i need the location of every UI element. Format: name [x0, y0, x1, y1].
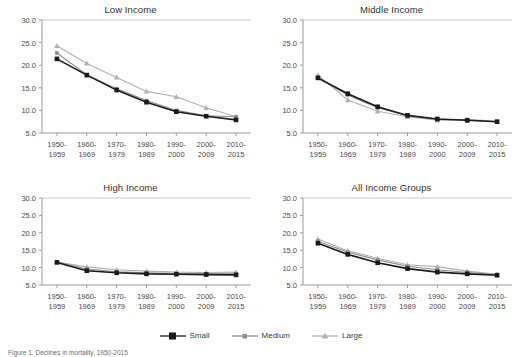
svg-text:30.0: 30.0: [282, 194, 297, 203]
svg-text:2000-: 2000-: [458, 292, 478, 301]
legend-item-medium: Medium: [232, 331, 290, 341]
svg-text:10.0: 10.0: [21, 264, 36, 273]
svg-text:1960-: 1960-: [338, 140, 358, 149]
svg-text:30.0: 30.0: [21, 16, 36, 25]
plot-area-low-income: 5.010.015.020.025.030.01950-19591960-196…: [0, 0, 261, 178]
svg-text:2000: 2000: [168, 150, 185, 159]
svg-text:15.0: 15.0: [21, 84, 36, 93]
svg-text:1960-: 1960-: [77, 292, 97, 301]
svg-text:25.0: 25.0: [21, 39, 36, 48]
svg-text:1980-: 1980-: [398, 140, 418, 149]
svg-text:25.0: 25.0: [282, 39, 297, 48]
svg-text:1970-: 1970-: [368, 292, 388, 301]
svg-text:5.0: 5.0: [287, 281, 297, 290]
plot-svg-all-income-groups: 5.010.015.020.025.030.01950-19591960-196…: [261, 178, 522, 330]
svg-text:1959: 1959: [49, 150, 66, 159]
panel-all-income-groups: All Income Groups 5.010.015.020.025.030.…: [261, 178, 522, 330]
svg-text:2000-: 2000-: [197, 292, 217, 301]
svg-text:1979: 1979: [369, 302, 386, 311]
svg-text:2010-: 2010-: [487, 140, 507, 149]
svg-text:20.0: 20.0: [21, 61, 36, 70]
svg-text:1959: 1959: [49, 302, 66, 311]
svg-text:1959: 1959: [310, 150, 327, 159]
svg-text:1969: 1969: [339, 150, 356, 159]
svg-text:2015: 2015: [489, 150, 506, 159]
svg-text:2015: 2015: [228, 302, 245, 311]
plot-area-high-income: 5.010.015.020.025.030.01950-19591960-196…: [0, 178, 261, 330]
svg-text:20.0: 20.0: [282, 229, 297, 238]
plot-area-all-income-groups: 5.010.015.020.025.030.01950-19591960-196…: [261, 178, 522, 330]
svg-text:1950-: 1950-: [47, 292, 67, 301]
svg-text:25.0: 25.0: [21, 211, 36, 220]
legend-marker-small-icon: [160, 331, 186, 341]
svg-text:2000: 2000: [429, 302, 446, 311]
svg-text:1979: 1979: [369, 150, 386, 159]
svg-text:1980-: 1980-: [137, 140, 157, 149]
panel-low-income: Low Income 5.010.015.020.025.030.01950-1…: [0, 0, 261, 178]
svg-text:2009: 2009: [198, 302, 215, 311]
chart-legend: Small Medium Large: [0, 331, 522, 341]
svg-text:20.0: 20.0: [282, 61, 297, 70]
legend-item-large: Large: [312, 331, 362, 341]
svg-text:1950-: 1950-: [308, 140, 328, 149]
svg-text:20.0: 20.0: [21, 229, 36, 238]
svg-text:1950-: 1950-: [308, 292, 328, 301]
svg-text:15.0: 15.0: [282, 84, 297, 93]
legend-label-large: Large: [342, 332, 362, 340]
svg-text:1970-: 1970-: [107, 292, 127, 301]
svg-text:30.0: 30.0: [282, 16, 297, 25]
svg-text:1969: 1969: [78, 150, 95, 159]
svg-text:1989: 1989: [138, 150, 155, 159]
plot-svg-high-income: 5.010.015.020.025.030.01950-19591960-196…: [0, 178, 261, 330]
svg-text:25.0: 25.0: [282, 211, 297, 220]
svg-text:1989: 1989: [399, 150, 416, 159]
svg-text:1990-: 1990-: [428, 140, 448, 149]
panel-high-income: High Income 5.010.015.020.025.030.01950-…: [0, 178, 261, 330]
svg-text:1980-: 1980-: [137, 292, 157, 301]
plot-svg-low-income: 5.010.015.020.025.030.01950-19591960-196…: [0, 0, 261, 178]
svg-text:2015: 2015: [228, 150, 245, 159]
svg-text:15.0: 15.0: [282, 246, 297, 255]
legend-item-small: Small: [160, 331, 210, 341]
svg-text:2000: 2000: [168, 302, 185, 311]
legend-label-medium: Medium: [262, 332, 290, 340]
panel-grid: Low Income 5.010.015.020.025.030.01950-1…: [0, 0, 522, 330]
svg-text:1959: 1959: [310, 302, 327, 311]
svg-text:30.0: 30.0: [21, 194, 36, 203]
svg-text:1960-: 1960-: [338, 292, 358, 301]
svg-text:10.0: 10.0: [21, 106, 36, 115]
svg-text:1960-: 1960-: [77, 140, 97, 149]
svg-text:2010-: 2010-: [226, 140, 246, 149]
svg-text:1979: 1979: [108, 302, 125, 311]
svg-text:2009: 2009: [459, 302, 476, 311]
svg-text:1969: 1969: [339, 302, 356, 311]
svg-text:2000-: 2000-: [458, 140, 478, 149]
svg-text:2000-: 2000-: [197, 140, 217, 149]
svg-text:10.0: 10.0: [282, 264, 297, 273]
panel-middle-income: Middle Income 5.010.015.020.025.030.0195…: [261, 0, 522, 178]
svg-text:2009: 2009: [198, 150, 215, 159]
svg-text:1990-: 1990-: [428, 292, 448, 301]
figure-caption: Figure 1. Declines in mortality, 1950-20…: [8, 349, 514, 357]
svg-text:5.0: 5.0: [26, 281, 36, 290]
svg-text:2010-: 2010-: [487, 292, 507, 301]
svg-text:1990-: 1990-: [167, 140, 187, 149]
figure-container: Low Income 5.010.015.020.025.030.01950-1…: [0, 0, 522, 357]
svg-text:1989: 1989: [399, 302, 416, 311]
svg-text:1969: 1969: [78, 302, 95, 311]
svg-text:2010-: 2010-: [226, 292, 246, 301]
legend-label-small: Small: [190, 332, 210, 340]
svg-text:15.0: 15.0: [21, 246, 36, 255]
svg-text:10.0: 10.0: [282, 106, 297, 115]
plot-area-middle-income: 5.010.015.020.025.030.01950-19591960-196…: [261, 0, 522, 178]
legend-marker-large-icon: [312, 331, 338, 341]
svg-text:1950-: 1950-: [47, 140, 67, 149]
svg-text:1990-: 1990-: [167, 292, 187, 301]
svg-text:2015: 2015: [489, 302, 506, 311]
plot-svg-middle-income: 5.010.015.020.025.030.01950-19591960-196…: [261, 0, 522, 178]
svg-text:2009: 2009: [459, 150, 476, 159]
svg-text:1970-: 1970-: [107, 140, 127, 149]
svg-text:1980-: 1980-: [398, 292, 418, 301]
svg-text:1979: 1979: [108, 150, 125, 159]
legend-marker-medium-icon: [232, 331, 258, 341]
